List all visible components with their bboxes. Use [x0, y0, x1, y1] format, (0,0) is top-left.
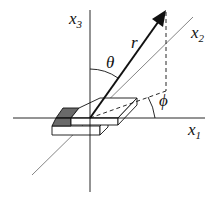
r-label: r	[131, 34, 138, 51]
diagram-graphic	[0, 0, 218, 197]
spherical-coordinates-diagram: x3 x2 x1 r θ ϕ	[0, 0, 218, 197]
x3-label: x3	[69, 10, 82, 30]
phi-label: ϕ	[159, 92, 168, 109]
upper-slab	[71, 98, 137, 125]
x2-axis	[32, 17, 193, 175]
arrowhead-icon	[152, 10, 166, 27]
x1-label: x1	[188, 121, 201, 141]
theta-label: θ	[106, 54, 114, 71]
x2-label: x2	[191, 24, 204, 44]
phi-arc	[148, 97, 155, 118]
